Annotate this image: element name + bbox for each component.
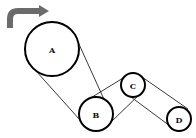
pulley-c: C [121, 73, 145, 97]
belt-b-c-lower [112, 94, 140, 121]
pulley-d-label: D [176, 115, 183, 125]
belt-a-b-left [36, 71, 80, 120]
pulley-b-label: B [93, 110, 100, 120]
pulley-d: D [167, 107, 191, 131]
pulley-a: A [25, 22, 79, 76]
pulley-c-label: C [130, 81, 136, 91]
belt-c-d-upper [142, 77, 188, 109]
pulley-b: B [79, 97, 113, 131]
pulley-a-label: A [48, 45, 56, 55]
belt-c-d-lower [131, 97, 170, 126]
pulley-diagram: A B C D [0, 0, 196, 138]
